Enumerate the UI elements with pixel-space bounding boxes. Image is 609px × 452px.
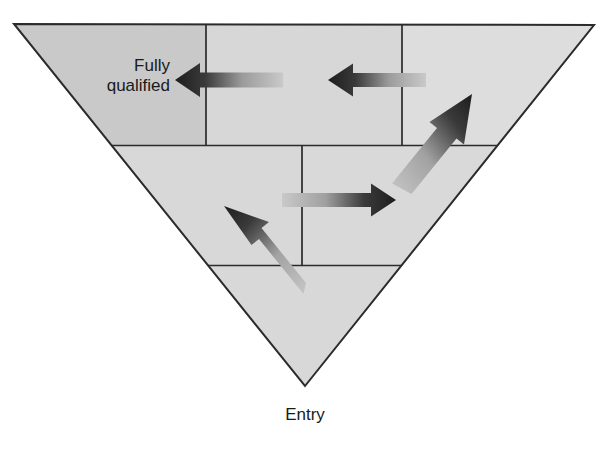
label-fully-qualified-line2: qualified xyxy=(107,76,170,95)
diagram-canvas: Fullyqualified Entry xyxy=(0,0,609,452)
label-entry: Entry xyxy=(225,405,385,425)
label-fully-qualified-line1: Fully xyxy=(134,56,170,75)
cell-middle-left xyxy=(0,146,302,266)
label-fully-qualified: Fullyqualified xyxy=(30,56,170,96)
